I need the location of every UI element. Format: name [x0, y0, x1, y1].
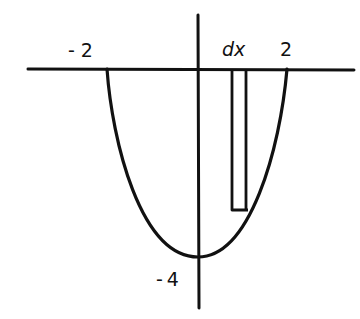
label-dx: dx — [222, 38, 246, 60]
x-axis — [28, 69, 354, 70]
label-neg-4: -4 — [156, 268, 183, 290]
parabola-area-diagram: -2 dx 2 -4 — [0, 0, 360, 319]
dx-strip-rectangle — [232, 70, 248, 210]
label-neg-2: -2 — [68, 39, 99, 61]
label-2: 2 — [280, 38, 292, 60]
y-axis — [198, 15, 199, 308]
